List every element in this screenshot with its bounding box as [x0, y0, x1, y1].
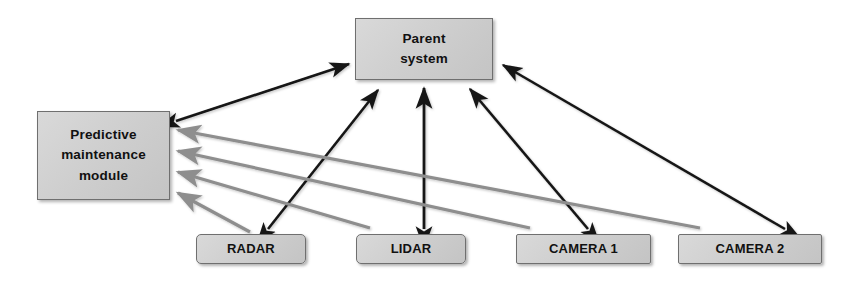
- node-camera-1-label: CAMERA 1: [549, 239, 618, 259]
- node-predictive-maintenance-module[interactable]: Predictive maintenance module: [37, 111, 170, 200]
- node-lidar[interactable]: LIDAR: [356, 234, 466, 264]
- node-predictive-maintenance-module-label: Predictive maintenance module: [61, 125, 146, 186]
- edge-radar-module: [178, 193, 250, 232]
- node-lidar-label: LIDAR: [391, 239, 432, 259]
- edge-lidar-module: [178, 172, 370, 228]
- node-radar-label: RADAR: [227, 239, 275, 259]
- edge-camera-1-parent-system: [470, 89, 588, 229]
- edge-camera-1-module: [178, 151, 530, 228]
- diagram-canvas: Parent system Predictive maintenance mod…: [0, 0, 849, 282]
- node-radar[interactable]: RADAR: [196, 234, 306, 264]
- node-parent-system[interactable]: Parent system: [355, 18, 493, 80]
- node-camera-2-label: CAMERA 2: [715, 239, 784, 259]
- edge-camera-2-module: [178, 130, 700, 228]
- edge-radar-parent-system: [268, 90, 378, 229]
- node-parent-system-label: Parent system: [400, 29, 448, 70]
- node-camera-1[interactable]: CAMERA 1: [516, 234, 651, 264]
- node-camera-2[interactable]: CAMERA 2: [678, 234, 822, 264]
- edge-camera-2-parent-system: [503, 65, 785, 229]
- edge-module-parent-system: [176, 64, 349, 121]
